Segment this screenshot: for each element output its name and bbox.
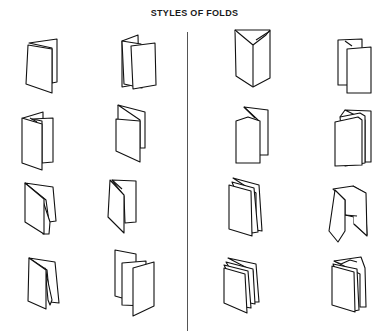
- fold-r2c3: [236, 107, 268, 163]
- fold-r4c1: [28, 258, 59, 309]
- fold-r1c2: [122, 35, 156, 89]
- fold-r2c4: [335, 110, 371, 166]
- fold-r1c1: [26, 39, 57, 93]
- fold-r3c2: [108, 180, 136, 233]
- fold-r4c3: [224, 258, 259, 313]
- fold-r2c1: [22, 112, 53, 170]
- fold-r3c3: [229, 178, 262, 236]
- fold-r3c1: [25, 183, 56, 234]
- folds-diagram: [0, 0, 389, 331]
- fold-r4c2: [115, 250, 154, 316]
- fold-r1c4: [338, 39, 371, 93]
- fold-r4c4: [332, 257, 366, 312]
- fold-r2c2: [116, 105, 145, 162]
- fold-r1c3: [235, 30, 270, 87]
- fold-r3c4: [329, 186, 367, 242]
